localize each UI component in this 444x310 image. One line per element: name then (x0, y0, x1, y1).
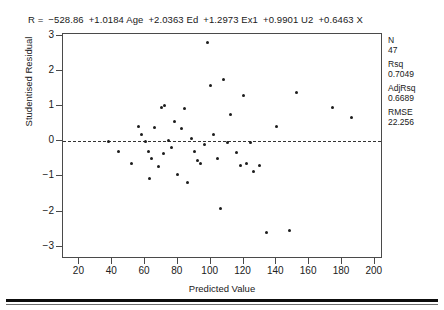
statistics-panel: N47Rsq0.7049AdjRsq0.6689RMSE22.256 (388, 36, 442, 132)
regression-equation: R =−528.86+1.0184 Age+2.0363 Ed+1.2973 E… (28, 14, 363, 25)
data-point (148, 177, 151, 180)
data-point (212, 133, 215, 136)
equation-term: +1.2973 Ex1 (203, 14, 258, 25)
data-point (186, 181, 189, 184)
data-point (249, 141, 252, 144)
y-axis-tick-label: 3 (22, 30, 54, 40)
statistic-rmse: RMSE22.256 (388, 108, 442, 127)
data-point (162, 152, 165, 155)
statistic-value: 22.256 (388, 118, 442, 128)
data-point (137, 125, 140, 128)
data-point (229, 113, 232, 116)
data-point (216, 157, 219, 160)
data-point (219, 207, 222, 210)
statistic-rsq: Rsq0.7049 (388, 60, 442, 79)
x-axis-tick (144, 258, 145, 264)
y-axis-tick-label: −1 (22, 170, 54, 180)
data-point (288, 229, 291, 232)
data-point (167, 139, 170, 142)
data-point (331, 106, 334, 109)
footer-rule-thick (6, 299, 438, 302)
x-axis-tick (374, 258, 375, 264)
equation-term: +2.0363 Ed (148, 14, 198, 25)
data-point (206, 41, 209, 44)
x-axis-tick (308, 258, 309, 264)
data-point (130, 162, 133, 165)
data-point (258, 164, 261, 167)
data-point (193, 150, 196, 153)
data-point (226, 141, 229, 144)
data-point (350, 116, 353, 119)
data-point (153, 126, 156, 129)
data-point (190, 137, 193, 140)
equation-term: +0.9901 U2 (263, 14, 313, 25)
zero-reference-line (63, 141, 381, 142)
statistic-adjrsq: AdjRsq0.6689 (388, 84, 442, 103)
data-point (117, 150, 120, 153)
x-axis-tick (177, 258, 178, 264)
statistic-value: 0.6689 (388, 94, 442, 104)
data-point (144, 140, 147, 143)
data-point (275, 125, 278, 128)
data-point (180, 127, 183, 130)
statistic-value: 0.7049 (388, 70, 442, 80)
x-axis-tick-label: 200 (354, 266, 394, 276)
data-point (160, 106, 163, 109)
data-point (209, 84, 212, 87)
x-axis-tick (111, 258, 112, 264)
data-point (222, 78, 225, 81)
data-point (147, 150, 150, 153)
data-point (140, 133, 143, 136)
data-point (203, 143, 206, 146)
data-point (242, 94, 245, 97)
data-point (245, 162, 248, 165)
x-axis-tick (78, 258, 79, 264)
equation-term: −528.86 (48, 14, 83, 25)
y-axis-tick-label: −2 (22, 206, 54, 216)
x-axis-title: Predicted Value (62, 283, 382, 294)
data-point (170, 146, 173, 149)
data-point (176, 173, 179, 176)
data-point (239, 164, 242, 167)
data-point (173, 120, 176, 123)
y-axis-tick-label: −3 (22, 241, 54, 251)
data-point (183, 107, 186, 110)
data-point (235, 151, 238, 154)
statistic-value: 47 (388, 46, 442, 56)
x-axis-tick (243, 258, 244, 264)
footer-rule-thin (6, 304, 438, 305)
data-point (150, 157, 153, 160)
y-axis-tick-label: 0 (22, 135, 54, 145)
data-point (157, 165, 160, 168)
data-point (163, 104, 166, 107)
statistic-n: N47 (388, 36, 442, 55)
equation-term: +1.0184 Age (89, 14, 144, 25)
x-axis-tick (210, 258, 211, 264)
y-axis-tick-label: 1 (22, 100, 54, 110)
data-point (295, 91, 298, 94)
x-axis-tick (341, 258, 342, 264)
data-point (252, 170, 255, 173)
x-axis-tick (275, 258, 276, 264)
equation-term: +0.6463 X (318, 14, 362, 25)
data-point (265, 231, 268, 234)
y-axis-tick-label: 2 (22, 65, 54, 75)
scatter-plot-area (62, 33, 382, 258)
data-point (199, 162, 202, 165)
